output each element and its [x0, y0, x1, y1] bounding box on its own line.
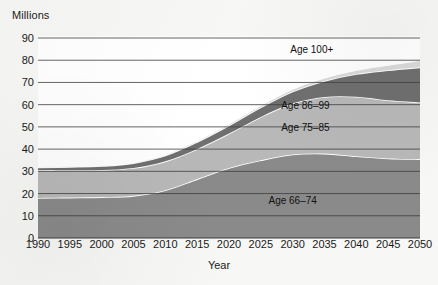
series-label-age-100-: Age 100+	[290, 44, 333, 55]
x-tick-label-2030: 2030	[280, 238, 304, 250]
x-tick-label-2015: 2015	[185, 238, 209, 250]
series-label-age-86-99: Age 86–99	[281, 99, 329, 110]
series-label-age-66-74: Age 66–74	[268, 195, 316, 206]
stacked-area-chart: Millions 0102030405060708090 Age 66–74Ag…	[0, 0, 438, 285]
x-tick-label-1990: 1990	[26, 238, 50, 250]
x-tick-label-2010: 2010	[153, 238, 177, 250]
x-tick-label-2040: 2040	[344, 238, 368, 250]
x-axis-title: Year	[0, 259, 438, 271]
x-tick-label-2020: 2020	[217, 238, 241, 250]
x-tick-label-2025: 2025	[249, 238, 273, 250]
x-axis-tick-labels: 1990199520002005201020152020202520302035…	[0, 238, 438, 256]
series-label-age-75-85: Age 75–85	[281, 121, 329, 132]
x-tick-label-2035: 2035	[312, 238, 336, 250]
x-tick-label-2050: 2050	[408, 238, 432, 250]
x-tick-label-1995: 1995	[58, 238, 82, 250]
x-tick-label-2000: 2000	[89, 238, 113, 250]
x-tick-label-2045: 2045	[376, 238, 400, 250]
x-tick-label-2005: 2005	[121, 238, 145, 250]
